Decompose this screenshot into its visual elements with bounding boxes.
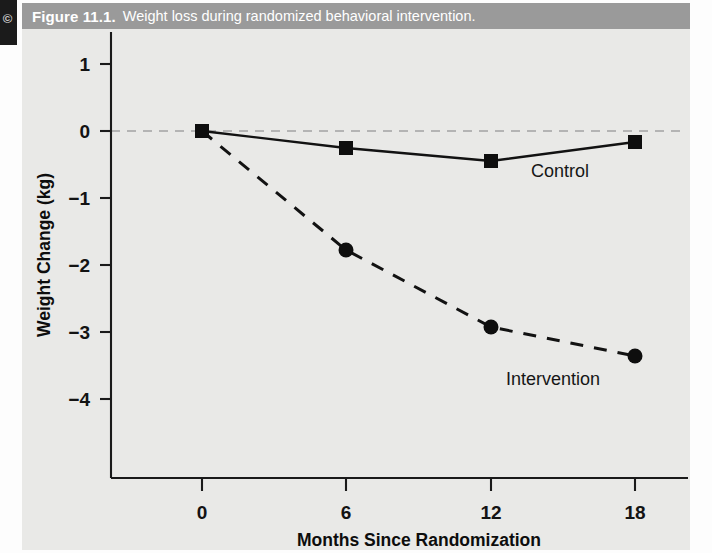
x-tick-label-6: 6 bbox=[341, 502, 352, 523]
intervention-markers bbox=[339, 243, 643, 364]
control-line bbox=[202, 131, 635, 161]
y-axis-tick-labels: 1 0 −1 −2 −3 −4 bbox=[68, 54, 90, 410]
y-tick-label-neg2: −2 bbox=[68, 255, 90, 276]
y-tick-label-0: 0 bbox=[79, 121, 90, 142]
x-tick-label-0: 0 bbox=[197, 502, 208, 523]
y-tick-label-neg1: −1 bbox=[68, 188, 90, 209]
x-axis-title: Months Since Randomization bbox=[297, 530, 541, 550]
y-axis-title: Weight Change (kg) bbox=[34, 173, 54, 337]
intervention-point-12 bbox=[484, 320, 499, 335]
figure-caption-bar: Figure 11.1. Weight loss during randomiz… bbox=[22, 3, 690, 29]
intervention-point-0 bbox=[339, 243, 354, 258]
control-point-6 bbox=[339, 141, 353, 155]
y-tick-label-1: 1 bbox=[79, 54, 90, 75]
y-tick-label-neg4: −4 bbox=[68, 389, 90, 410]
weight-change-line-chart: 1 0 −1 −2 −3 −4 0 6 12 18 M bbox=[22, 29, 690, 550]
x-tick-label-18: 18 bbox=[624, 502, 645, 523]
figure-number: Figure 11.1. bbox=[32, 8, 116, 25]
figure-plot-area: 1 0 −1 −2 −3 −4 0 6 12 18 M bbox=[22, 29, 690, 550]
intervention-point-18 bbox=[628, 349, 643, 364]
y-axis-ticks bbox=[100, 64, 111, 399]
control-series-label: Control bbox=[531, 161, 589, 181]
x-axis-tick-labels: 0 6 12 18 bbox=[197, 502, 646, 523]
control-point-12 bbox=[484, 154, 498, 168]
control-point-0 bbox=[195, 124, 209, 138]
intervention-series-label: Intervention bbox=[506, 369, 600, 389]
binding-glyph: © bbox=[2, 8, 13, 30]
figure-page: © Figure 11.1. Weight loss during random… bbox=[0, 0, 712, 553]
x-axis-ticks bbox=[202, 478, 635, 491]
figure-caption-text: Weight loss during randomized behavioral… bbox=[123, 8, 476, 24]
control-point-18 bbox=[628, 135, 642, 149]
x-tick-label-12: 12 bbox=[480, 502, 501, 523]
page-binding-artifact: © bbox=[0, 0, 17, 45]
y-tick-label-neg3: −3 bbox=[68, 322, 90, 343]
